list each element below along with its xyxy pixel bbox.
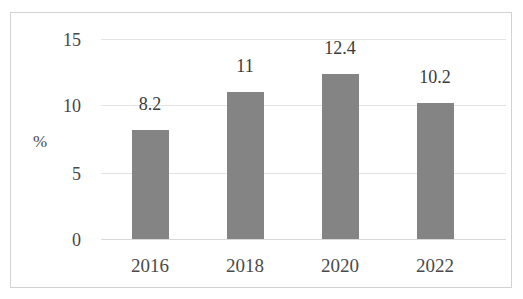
bar-label-2020: 12.4	[300, 39, 380, 57]
chart-container: 15 10 5 0 % 8.2 11 12.4 10.2 2016 2018 2…	[10, 12, 512, 288]
bar-label-2016: 8.2	[110, 95, 190, 113]
bar-2020[interactable]	[322, 74, 359, 239]
y-axis-title: %	[33, 133, 47, 150]
clipped-top-text-label: —— ——— —— ———— ——	[4, 0, 151, 3]
ytick-label-5: 5	[3, 165, 81, 183]
xtick-label-2022: 2022	[395, 256, 475, 275]
bar-label-2022: 10.2	[395, 68, 475, 86]
bar-label-2018: 11	[205, 57, 285, 75]
clipped-top-text: —— ——— —— ———— ——	[0, 0, 523, 6]
chart-plot-area: 15 10 5 0 % 8.2 11 12.4 10.2 2016 2018 2…	[11, 13, 511, 287]
ytick-label-10: 10	[3, 97, 81, 115]
xtick-label-2016: 2016	[110, 256, 190, 275]
ytick-label-0: 0	[3, 231, 81, 249]
axis-baseline	[101, 239, 506, 240]
xtick-label-2020: 2020	[300, 256, 380, 275]
bar-2022[interactable]	[417, 103, 454, 239]
bar-2018[interactable]	[227, 92, 264, 239]
ytick-label-15: 15	[3, 31, 81, 49]
bar-2016[interactable]	[132, 130, 169, 239]
xtick-label-2018: 2018	[205, 256, 285, 275]
